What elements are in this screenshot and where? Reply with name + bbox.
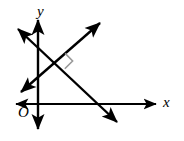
line-negative-slope <box>18 29 117 122</box>
right-angle-marker <box>65 53 73 68</box>
coordinate-plane-figure: y x O <box>0 0 184 141</box>
line-positive-slope <box>21 23 100 92</box>
x-axis-label: x <box>163 95 170 110</box>
origin-label: O <box>18 105 29 120</box>
y-axis-label: y <box>37 4 44 19</box>
